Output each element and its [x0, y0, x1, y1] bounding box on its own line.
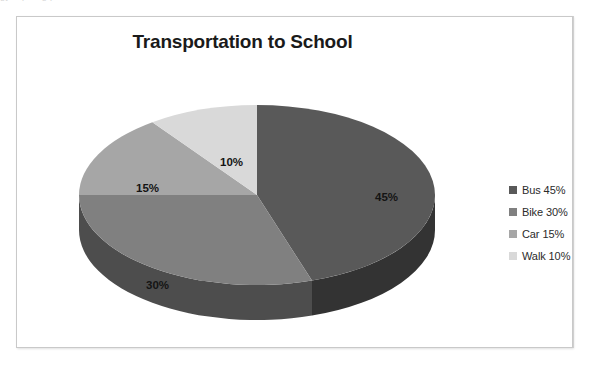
- legend-item-bike: Bike 30%: [509, 201, 587, 223]
- pie-chart-plot-area: 45% 30% 15% 10%: [17, 57, 487, 347]
- pie-label-bike: 30%: [146, 279, 169, 291]
- legend-label-walk: Walk 10%: [522, 250, 570, 262]
- legend-swatch-bike-icon: [509, 208, 517, 216]
- scanned-page-text-artifact: gy .. p ....g p ... ...: [0, 0, 589, 3]
- chart-legend: Bus 45% Bike 30% Car 15% Walk 10%: [509, 179, 587, 267]
- legend-label-bus: Bus 45%: [522, 184, 565, 196]
- pie-chart-graphic: [17, 57, 487, 347]
- pie-label-bus: 45%: [375, 191, 398, 203]
- pie-label-walk: 10%: [220, 156, 243, 168]
- chart-title-text: Transportation to School: [132, 31, 352, 53]
- legend-swatch-car-icon: [509, 230, 517, 238]
- chart-title: Transportation to School: [17, 31, 572, 53]
- chart-frame: Transportation to School 45% 30% 15% 10%…: [16, 16, 573, 348]
- pie-label-car: 15%: [136, 182, 159, 194]
- legend-label-car: Car 15%: [522, 228, 564, 240]
- legend-swatch-walk-icon: [509, 252, 517, 260]
- legend-item-bus: Bus 45%: [509, 179, 587, 201]
- legend-item-walk: Walk 10%: [509, 245, 587, 267]
- legend-label-bike: Bike 30%: [522, 206, 568, 218]
- legend-swatch-bus-icon: [509, 186, 517, 194]
- page-gutter-rule: [573, 16, 574, 348]
- legend-item-car: Car 15%: [509, 223, 587, 245]
